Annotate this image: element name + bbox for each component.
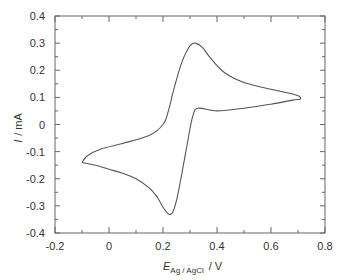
y-axis-label: I/ mA <box>12 113 24 143</box>
y-tick-label: -0.3 <box>26 200 45 212</box>
x-tick-label: 0.2 <box>155 240 170 252</box>
y-tick-label: -0.4 <box>26 227 45 239</box>
y-tick-label: 0.4 <box>30 10 45 22</box>
x-tick-label: 0.4 <box>209 240 224 252</box>
y-tick-label: 0.3 <box>30 37 45 49</box>
x-tick-label: 0.8 <box>317 240 332 252</box>
cv-chart: -0.4-0.3-0.2-0.100.10.20.30.4 -0.200.20.… <box>0 0 339 280</box>
x-axis-label: EAg / AgCl/ V <box>163 260 223 275</box>
y-tick-label: 0.2 <box>30 64 45 76</box>
x-tick-label: 0.6 <box>263 240 278 252</box>
y-tick-label: -0.1 <box>26 146 45 158</box>
plot-frame <box>55 16 325 233</box>
x-tick-label: 0 <box>106 240 112 252</box>
cv-curve <box>82 43 301 215</box>
y-tick-label: 0 <box>39 119 45 131</box>
x-tick-label: -0.2 <box>46 240 65 252</box>
y-tick-label: -0.2 <box>26 173 45 185</box>
y-tick-label: 0.1 <box>30 91 45 103</box>
